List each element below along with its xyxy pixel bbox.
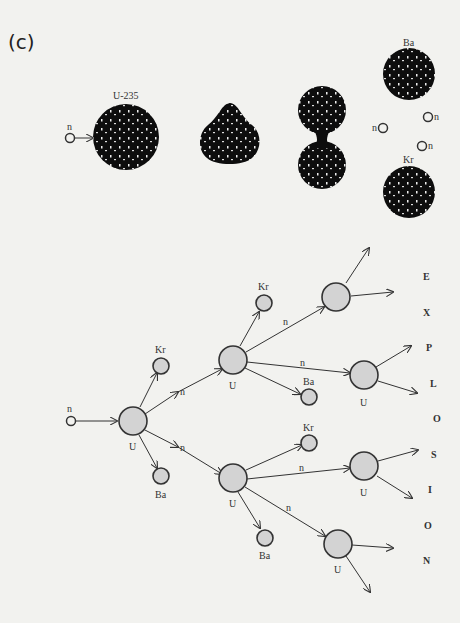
krypton-nucleus bbox=[256, 295, 272, 311]
uranium-nucleus bbox=[219, 464, 247, 492]
neutron-label: n bbox=[67, 403, 72, 414]
barium-nucleus bbox=[153, 468, 169, 484]
uranium-nucleus bbox=[322, 283, 350, 311]
word-letter: O bbox=[424, 520, 432, 531]
neutron-icon bbox=[66, 134, 75, 143]
nucleus-label-u235: U-235 bbox=[113, 90, 139, 101]
word-letter: O bbox=[433, 413, 441, 424]
neutron-label: n bbox=[428, 140, 433, 151]
neutron-icon bbox=[418, 142, 427, 151]
uranium-nucleus bbox=[219, 346, 247, 374]
fragment-label: Kr bbox=[303, 422, 314, 433]
word-letter: X bbox=[423, 307, 431, 318]
word-letter: E bbox=[423, 271, 430, 282]
neutron-label: n bbox=[299, 462, 304, 473]
neutron-label: n bbox=[434, 111, 439, 122]
krypton-nucleus bbox=[301, 435, 317, 451]
deformed-nucleus-teardrop bbox=[200, 103, 260, 164]
barium-nucleus bbox=[301, 389, 317, 405]
chain-labels: n U Kr Ba n n U U Kr Ba Kr Ba n n n n U … bbox=[67, 281, 368, 575]
neutron-label: n bbox=[180, 442, 185, 453]
explosion-word: E X P L O S I O N bbox=[423, 271, 441, 566]
nucleus-label: U bbox=[129, 441, 137, 452]
fragment-label: Ba bbox=[155, 489, 167, 500]
barium-nucleus bbox=[257, 530, 273, 546]
barium-nucleus bbox=[383, 48, 435, 100]
fragment-label: Kr bbox=[258, 281, 269, 292]
neutron-label: n bbox=[286, 502, 291, 513]
nucleus-label: U bbox=[360, 397, 368, 408]
neutron-label: n bbox=[180, 386, 185, 397]
u235-nucleus bbox=[93, 104, 159, 170]
uranium-nucleus bbox=[119, 407, 147, 435]
fragment-label: Ba bbox=[303, 376, 315, 387]
fragment-label-kr: Kr bbox=[403, 154, 414, 165]
word-letter: P bbox=[426, 342, 432, 353]
krypton-nucleus bbox=[383, 166, 435, 218]
neutron-label: n bbox=[283, 316, 288, 327]
neutron-label: n bbox=[372, 122, 377, 133]
neutron-icon bbox=[379, 124, 388, 133]
neutron-label: n bbox=[67, 121, 72, 132]
fission-diagram: n U-235 Ba n n n Kr bbox=[0, 0, 460, 623]
krypton-nucleus bbox=[153, 358, 169, 374]
uranium-nucleus bbox=[350, 452, 378, 480]
word-letter: S bbox=[431, 449, 437, 460]
fragment-label: Kr bbox=[155, 344, 166, 355]
fragment-label: Ba bbox=[259, 550, 271, 561]
neutron-icon bbox=[67, 417, 76, 426]
nucleus-label: U bbox=[334, 564, 342, 575]
word-letter: I bbox=[428, 484, 432, 495]
neutron-icon bbox=[424, 113, 433, 122]
uranium-nucleus bbox=[324, 530, 352, 558]
neutron-label: n bbox=[300, 357, 305, 368]
word-letter: L bbox=[430, 378, 437, 389]
nucleus-label: U bbox=[229, 498, 237, 509]
uranium-nucleus bbox=[350, 361, 378, 389]
fragment-label-ba: Ba bbox=[403, 37, 415, 48]
nucleus-label: U bbox=[360, 487, 368, 498]
chain-reaction bbox=[67, 248, 419, 592]
top-row-fission-sequence: n U-235 Ba n n n Kr bbox=[66, 37, 440, 218]
dumbbell-nucleus bbox=[298, 86, 346, 189]
nucleus-label: U bbox=[229, 380, 237, 391]
word-letter: N bbox=[423, 555, 431, 566]
